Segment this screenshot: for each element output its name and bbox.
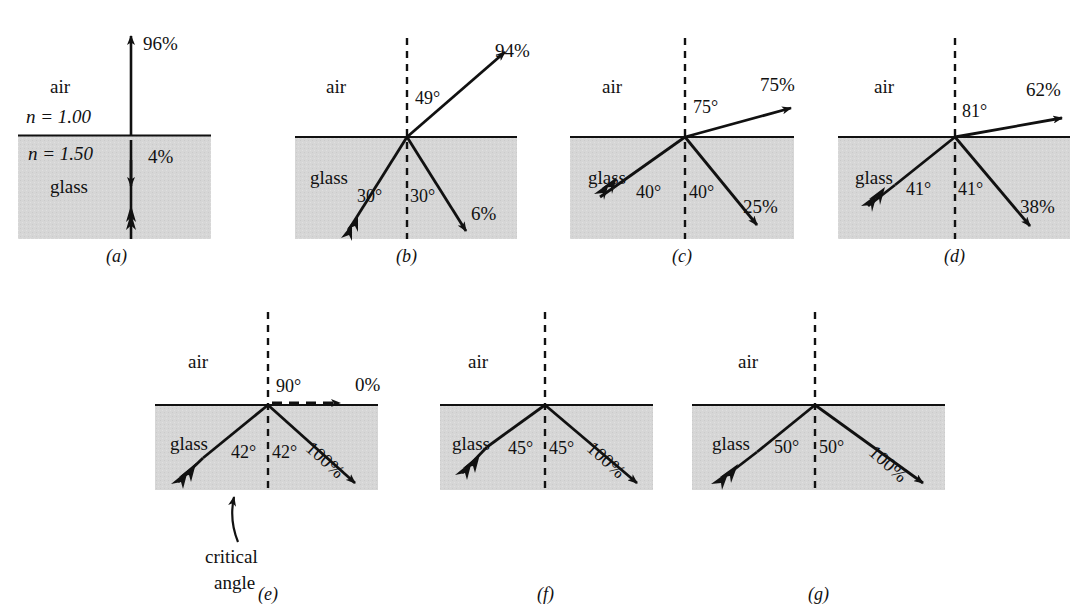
panel-c-transmitted: 75% (760, 74, 795, 96)
panel-c-incidence-angle: 40° (636, 182, 661, 203)
panel-c-reflection-angle: 40° (689, 182, 714, 203)
panel-d-letter: (d) (944, 246, 965, 267)
panel-a-graphics (18, 36, 211, 239)
panel-f-incidence-angle: 45° (508, 438, 533, 459)
panel-e-reflection-angle: 42° (272, 442, 297, 463)
panel-f-glass-label: glass (452, 433, 490, 455)
panel-a-transmitted: 96% (143, 33, 178, 55)
panel-d-transmitted: 62% (1026, 79, 1061, 101)
panel-d-air-label: air (874, 76, 894, 98)
panel-c-glass-label: glass (588, 167, 626, 189)
panel-g-air-label: air (738, 351, 758, 373)
panel-d-reflection-angle: 41° (958, 179, 983, 200)
panel-d-glass-label: glass (855, 167, 893, 189)
panel-g-incidence-angle: 50° (774, 437, 799, 458)
panel-e-air-label: air (188, 351, 208, 373)
panel-f-air-label: air (468, 351, 488, 373)
ray-diagram-svg (0, 0, 1088, 609)
panel-a-glass-label: glass (50, 176, 88, 198)
panel-a-reflected: 4% (148, 146, 173, 168)
panel-f-reflection-angle: 45° (549, 438, 574, 459)
panel-d-refraction-angle: 81° (962, 101, 987, 122)
panel-e-critical-note-line2: angle (214, 572, 255, 594)
panel-e-letter: (e) (258, 584, 278, 605)
panel-g-reflection-angle: 50° (819, 437, 844, 458)
panel-a-air-label: air (50, 76, 70, 98)
panel-c-reflected: 25% (743, 196, 778, 218)
panel-c-air-label: air (602, 76, 622, 98)
panel-b-reflected: 6% (471, 203, 496, 225)
panel-e-incidence-angle: 42° (231, 442, 256, 463)
panel-b-transmitted: 94% (495, 40, 530, 62)
panel-b-glass-label: glass (310, 167, 348, 189)
panel-b-air-label: air (326, 76, 346, 98)
panel-b-reflection-angle: 30° (410, 186, 435, 207)
panel-e-transmitted: 0% (355, 374, 380, 396)
panel-d-incidence-angle: 41° (906, 179, 931, 200)
optics-figure: air n = 1.00 n = 1.50 glass 96% 4% (a) a… (0, 0, 1088, 609)
panel-g-graphics (692, 312, 945, 490)
panel-f-letter: (f) (537, 584, 554, 605)
panel-b-letter: (b) (396, 246, 417, 267)
panel-c-refraction-angle: 75° (693, 97, 718, 118)
panel-b-incidence-angle: 30° (357, 186, 382, 207)
panel-g-glass-label: glass (712, 433, 750, 455)
panel-d-reflected: 38% (1020, 196, 1055, 218)
panel-a-letter: (a) (106, 246, 127, 267)
panel-e-glass-label: glass (170, 433, 208, 455)
panel-g-letter: (g) (808, 584, 829, 605)
panel-e-critical-note-line1: critical (205, 546, 258, 568)
panel-e-refraction-angle: 90° (276, 376, 301, 397)
panel-c-letter: (c) (672, 246, 692, 267)
panel-b-refraction-angle: 49° (415, 88, 440, 109)
panel-a-n-air: n = 1.00 (26, 106, 91, 128)
panel-e-graphics (155, 312, 378, 542)
panel-a-n-glass: n = 1.50 (28, 143, 93, 165)
